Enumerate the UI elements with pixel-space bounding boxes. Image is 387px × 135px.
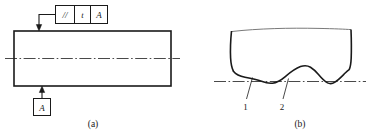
technical-drawing-figure: // t A A (a)	[0, 0, 387, 135]
datum-feature-arrowhead	[39, 86, 44, 93]
break-line-top	[232, 28, 351, 31]
callout-1-leader-line	[247, 78, 253, 100]
irregular-surface-profile	[233, 66, 349, 84]
panel-b: 1 2 (b)	[214, 28, 366, 130]
panel-a: // t A A (a)	[5, 6, 180, 131]
callout-2-label: 2	[280, 102, 285, 112]
rectangular-part-outline	[14, 31, 171, 86]
panel-a-caption: (a)	[88, 119, 99, 130]
datum-reference-label: A	[95, 10, 102, 20]
left-edge	[230, 31, 233, 71]
datum-feature-symbol-a[interactable]: A	[34, 99, 51, 116]
datum-feature-letter: A	[38, 103, 45, 113]
callout-1-label: 1	[243, 102, 248, 112]
parallelism-feature-control-frame[interactable]: // t A	[56, 6, 108, 24]
feature-control-arrowhead	[36, 25, 41, 32]
right-edge	[349, 30, 351, 70]
panel-b-caption: (b)	[294, 119, 305, 130]
